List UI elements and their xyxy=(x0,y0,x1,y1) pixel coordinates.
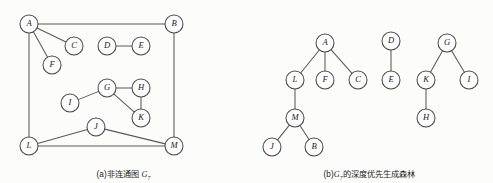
graph-node-e: E xyxy=(132,37,150,55)
graph-edge xyxy=(78,91,98,99)
node-label: C xyxy=(71,40,77,50)
node-label: B xyxy=(171,18,177,28)
node-label: G xyxy=(104,82,111,92)
graph-node-h: H xyxy=(417,109,435,127)
graph-node-i: I xyxy=(61,94,79,112)
graph-node-e: E xyxy=(382,71,400,89)
graph-node-k: K xyxy=(417,71,435,89)
dfs-spanning-forest: ALFCMJBDEGKIH xyxy=(246,0,493,160)
graph-node-k: K xyxy=(132,109,150,127)
node-label: F xyxy=(48,59,55,69)
node-label: C xyxy=(355,74,361,84)
figure-panel-a: ABCDEFGHIKJLM (a)非连通图 G7 xyxy=(0,0,247,183)
undirected-graph-g7: ABCDEFGHIKJLM xyxy=(0,0,247,160)
node-label: B xyxy=(311,141,317,151)
caption-b-text: 的深度优先生成森林 xyxy=(343,170,416,179)
node-label: M xyxy=(169,140,178,150)
node-label: H xyxy=(422,112,430,122)
node-label: E xyxy=(387,74,394,84)
graph-node-f: F xyxy=(316,71,334,89)
graph-node-d: D xyxy=(98,37,116,55)
node-label: E xyxy=(137,40,144,50)
node-label: G xyxy=(444,37,451,47)
graph-node-a: A xyxy=(20,15,38,33)
graph-node-j: J xyxy=(263,138,281,156)
graph-node-i: I xyxy=(460,71,478,89)
graph-node-h: H xyxy=(132,79,150,97)
graph-node-j: J xyxy=(87,118,105,136)
graph-edge xyxy=(114,94,135,112)
node-label: D xyxy=(387,35,395,45)
caption-a-prefix: (a) xyxy=(96,170,106,179)
caption-panel-a: (a)非连通图 G7 xyxy=(0,167,247,181)
node-label: L xyxy=(292,74,298,84)
caption-a-text: 非连通图 xyxy=(107,170,139,179)
graph-edge xyxy=(430,51,442,72)
graph-node-f: F xyxy=(43,56,61,74)
graph-node-d: D xyxy=(382,32,400,50)
node-label: F xyxy=(321,74,328,84)
node-label: M xyxy=(290,112,299,122)
graph-node-l: L xyxy=(286,71,304,89)
graph-node-b: B xyxy=(165,15,183,33)
graph-edge xyxy=(300,126,309,140)
figure-container: ABCDEFGHIKJLM (a)非连通图 G7 ALFCMJBDEGKIH (… xyxy=(0,0,493,183)
graph-node-c: C xyxy=(65,37,83,55)
graph-edge xyxy=(331,50,352,74)
caption-panel-b: (b)G7的深度优先生成森林 xyxy=(246,167,493,181)
graph-node-m: M xyxy=(286,109,304,127)
graph-edge xyxy=(278,125,290,140)
graph-node-g: G xyxy=(98,79,116,97)
node-label: A xyxy=(25,18,32,28)
graph-edge xyxy=(33,32,47,57)
graph-edge xyxy=(37,28,66,42)
graph-edge xyxy=(105,129,166,144)
node-label: L xyxy=(26,140,32,150)
node-label: D xyxy=(103,40,111,50)
graph-node-m: M xyxy=(165,137,183,155)
graph-edge xyxy=(38,129,88,143)
graph-node-a: A xyxy=(316,34,334,52)
graph-node-c: C xyxy=(349,71,367,89)
node-label: A xyxy=(321,37,328,47)
graph-node-b: B xyxy=(305,138,323,156)
graph-node-g: G xyxy=(438,34,456,52)
caption-b-prefix: (b) xyxy=(323,170,333,179)
graph-edge xyxy=(452,51,465,73)
graph-edge xyxy=(301,50,320,73)
caption-a-subscript: 7 xyxy=(148,175,151,181)
graph-node-l: L xyxy=(20,137,38,155)
figure-panel-b: ALFCMJBDEGKIH (b)G7的深度优先生成森林 xyxy=(246,0,493,183)
node-label: H xyxy=(137,82,145,92)
